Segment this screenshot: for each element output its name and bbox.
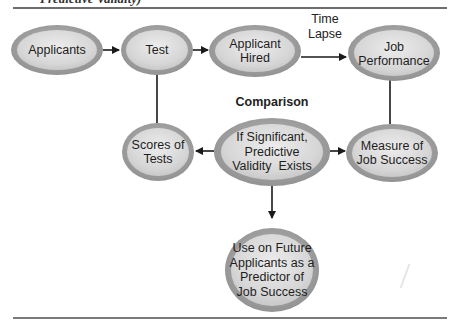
node-text: Scores of [132,138,185,153]
node-applicants: Applicants [17,30,97,70]
node-test: Test [126,30,188,70]
node-text: Validity Exists [232,159,312,174]
node-text: Job Success [230,285,315,300]
comparison-label: Comparison [222,95,322,110]
node-text: Use on Future [230,241,315,256]
node-measure-of-job-success: Measure of Job Success [350,131,434,175]
node-scores-of-tests: Scores of Tests [126,130,190,174]
node-text: Job [358,40,430,55]
node-job-performance: Job Performance [352,32,436,76]
node-applicant-hired: Applicant Hired [215,30,295,72]
time-label: Time [304,12,346,27]
node-text: Test [146,43,169,58]
lapse-label: Lapse [304,27,346,42]
node-text: Job Success [357,153,428,168]
node-text: Hired [229,51,280,66]
node-predictive-validity: If Significant, Predictive Validity Exis… [220,124,324,180]
bottom-rule [13,317,447,319]
node-text: Performance [358,54,430,69]
node-text: If Significant, [232,130,312,145]
node-text: Predictive [232,145,312,160]
node-text: Tests [132,152,185,167]
node-text: Applicants as a [230,256,315,271]
node-use-on-future: Use on Future Applicants as a Predictor … [226,236,318,304]
node-text: Applicants [28,43,86,58]
node-text: Applicant [229,37,280,52]
node-text: Predictor of [230,270,315,285]
node-text: Measure of [357,139,428,154]
time-lapse-label: Time Lapse [304,12,346,41]
